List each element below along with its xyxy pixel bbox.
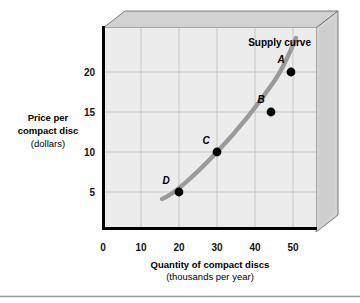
point-label-B: B [257,94,264,105]
x-tick-label-10: 10 [135,242,147,253]
x-axis-subtitle: (thousands per year) [166,271,254,282]
y-tick-label-15: 15 [84,107,96,118]
box-right-face-shade [319,17,335,226]
point-label-C: C [202,135,210,146]
y-tick-label-20: 20 [84,67,96,78]
x-tick-label-40: 40 [249,242,261,253]
x-tick-label-20: 20 [173,242,185,253]
x-tick-label-0: 0 [100,242,106,253]
x-axis-title: Quantity of compact discs [151,259,270,270]
supply-curve-label: Supply curve [248,37,311,48]
supply-curve-figure: D C B A Supply curve 20 15 10 5 0 10 20 … [0,0,360,303]
y-axis-title-line1: Price per [28,112,69,123]
data-point-A [287,68,296,77]
y-tick-label-10: 10 [84,147,96,158]
point-label-D: D [162,175,169,186]
point-label-A: A [276,54,284,65]
data-point-D [175,188,184,197]
y-axis-title-line2: compact disc [18,125,79,136]
x-tick-label-30: 30 [211,242,223,253]
data-point-B [267,108,276,117]
chart-svg: D C B A Supply curve 20 15 10 5 0 10 20 … [0,0,360,303]
box-top-face [103,11,338,28]
y-tick-label-5: 5 [89,187,95,198]
y-axis-subtitle: (dollars) [31,138,65,149]
x-tick-label-50: 50 [287,242,299,253]
data-point-C [213,148,222,157]
